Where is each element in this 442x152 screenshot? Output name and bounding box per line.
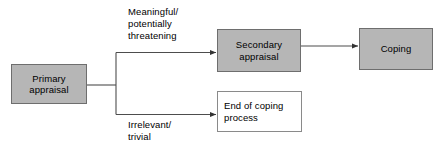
- node-primary-appraisal[interactable]: Primary appraisal: [11, 64, 87, 104]
- node-coping[interactable]: Coping: [359, 28, 433, 70]
- node-end-of-coping-process[interactable]: End of coping process: [217, 91, 302, 132]
- node-coping-label: Coping: [381, 43, 412, 55]
- node-secondary-appraisal-label: Secondary appraisal: [236, 39, 282, 62]
- edge-label-irrelevant-trivial: Irrelevant/ trivial: [128, 119, 224, 143]
- node-secondary-appraisal[interactable]: Secondary appraisal: [217, 29, 301, 72]
- node-primary-appraisal-label: Primary appraisal: [29, 73, 68, 96]
- edge-label-meaningful-potentially-threatening: Meaningful/ potentially threatening: [128, 6, 224, 41]
- node-end-of-coping-process-label: End of coping process: [218, 100, 283, 123]
- appraisal-flow-diagram: Primary appraisal Secondary appraisal Co…: [0, 0, 442, 152]
